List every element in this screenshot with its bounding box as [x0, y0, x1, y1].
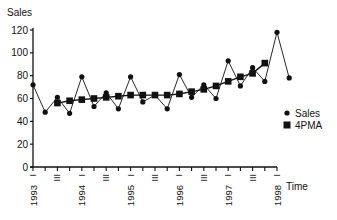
- sales-point: [30, 82, 35, 87]
- pma-point: [262, 60, 269, 67]
- sales-point: [67, 111, 72, 116]
- sales-point: [238, 83, 243, 88]
- x-quarter-mark: I: [174, 174, 184, 177]
- x-quarter-mark: I: [126, 174, 136, 177]
- legend-sales-marker: [284, 110, 289, 115]
- sales-point: [274, 30, 279, 35]
- sales-point: [116, 106, 121, 111]
- y-tick-label: 60: [17, 93, 29, 104]
- y-tick-label: 100: [11, 47, 28, 58]
- x-axis-label: Time: [286, 181, 308, 192]
- y-tick-label: 120: [11, 25, 28, 36]
- x-quarter-mark: III: [248, 174, 258, 182]
- sales-point: [43, 110, 48, 115]
- pma-point: [140, 92, 147, 99]
- pma-point: [225, 78, 232, 85]
- sales-chart: Sales020406080100120I1993IIII1994IIII199…: [0, 0, 337, 220]
- sales-point: [250, 65, 255, 70]
- pma-point: [213, 83, 220, 90]
- x-year-label: 1993: [28, 185, 39, 206]
- sales-point: [213, 96, 218, 101]
- x-quarter-mark: I: [272, 174, 282, 177]
- legend-sales-label: Sales: [295, 108, 320, 119]
- sales-point: [140, 99, 145, 104]
- x-quarter-mark: III: [150, 174, 160, 182]
- x-year-label: 1994: [76, 185, 87, 206]
- legend-4pma-marker: [284, 122, 291, 129]
- pma-point: [103, 94, 110, 101]
- pma-point: [54, 100, 61, 107]
- sales-point: [165, 106, 170, 111]
- pma-point: [164, 92, 171, 99]
- sales-point: [177, 72, 182, 77]
- pma-point: [249, 70, 256, 77]
- y-axis-label: Sales: [7, 7, 32, 18]
- x-quarter-mark: I: [77, 174, 87, 177]
- sales-point: [226, 58, 231, 63]
- x-year-label: 1996: [174, 185, 185, 206]
- y-tick-label: 40: [17, 116, 29, 127]
- x-year-label: 1998: [272, 185, 283, 206]
- x-quarter-mark: III: [52, 174, 62, 182]
- y-tick-label: 80: [17, 70, 29, 81]
- pma-point: [66, 97, 73, 104]
- x-quarter-mark: I: [28, 174, 38, 177]
- pma-point: [176, 91, 183, 98]
- series-line-4pma: [57, 63, 264, 103]
- sales-point: [128, 74, 133, 79]
- sales-point: [55, 95, 60, 100]
- x-quarter-mark: I: [223, 174, 233, 177]
- sales-point: [287, 75, 292, 80]
- sales-point: [262, 79, 267, 84]
- x-quarter-mark: III: [199, 174, 209, 182]
- x-quarter-mark: III: [101, 174, 111, 182]
- pma-point: [152, 92, 159, 99]
- x-year-label: 1997: [223, 185, 234, 206]
- pma-point: [201, 86, 208, 93]
- sales-point: [79, 74, 84, 79]
- legend-4pma-label: 4PMA: [295, 120, 323, 131]
- pma-point: [127, 92, 134, 99]
- x-year-label: 1995: [125, 185, 136, 206]
- pma-point: [79, 96, 86, 103]
- y-tick-label: 0: [22, 162, 28, 173]
- sales-point: [91, 104, 96, 109]
- pma-point: [188, 88, 195, 95]
- sales-point: [189, 95, 194, 100]
- pma-point: [115, 93, 122, 100]
- y-tick-label: 20: [17, 139, 29, 150]
- pma-point: [237, 74, 244, 81]
- pma-point: [91, 95, 98, 102]
